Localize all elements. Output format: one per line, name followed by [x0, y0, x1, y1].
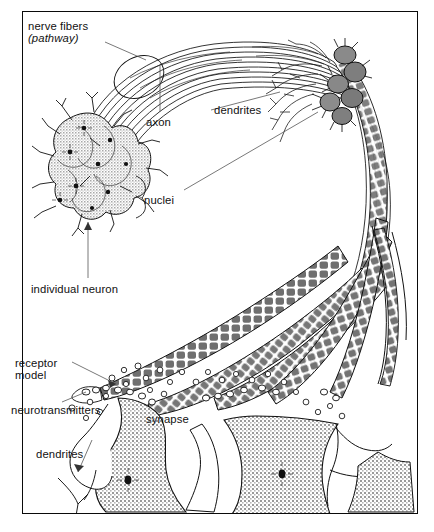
label-individual-neuron: individual neuron: [31, 283, 118, 295]
myelinated-axon-fan: [100, 218, 406, 416]
label-synapse: synapse: [146, 413, 189, 425]
postsynaptic-cell-bodies: [58, 398, 414, 516]
label-nerve-fibers: nerve fibers: [28, 20, 88, 32]
label-nuclei: nuclei: [144, 194, 174, 206]
label-dendrites-top: dendrites: [214, 104, 261, 116]
neuroscience-diagram: nerve fibers (pathway) axon dendrites nu…: [0, 0, 434, 532]
label-dendrites-bottom: dendrites: [36, 448, 83, 460]
label-neurotransmitters: neurotransmitters: [11, 404, 101, 416]
label-receptor: receptor: [15, 357, 57, 369]
label-axon: axon: [146, 116, 171, 128]
label-pathway: (pathway): [28, 32, 79, 44]
label-model: model: [15, 369, 46, 381]
